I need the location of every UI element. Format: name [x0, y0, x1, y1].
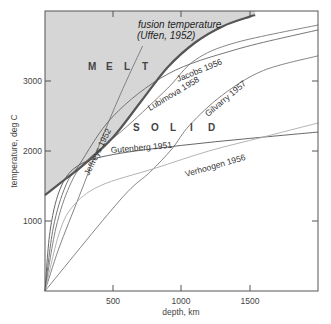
- gilvarry-label: Gilvarry 1957: [203, 78, 248, 118]
- y-tick-label: 3000: [23, 76, 42, 86]
- melt-letter: M: [88, 61, 96, 72]
- solid-letter: O: [151, 122, 159, 133]
- x-tick-label: 500: [106, 296, 120, 306]
- y-tick-label: 2000: [23, 146, 42, 156]
- fusion-label-line2: (Uffen, 1952): [137, 30, 195, 41]
- gutenberg-label: Gutenberg 1951: [110, 140, 172, 155]
- solid-letter: L: [170, 122, 176, 133]
- melt-letter: L: [124, 61, 130, 72]
- solid-letter: I: [190, 122, 193, 133]
- solid-label: S O L I D: [133, 122, 215, 133]
- x-tick-label: 1000: [172, 296, 191, 306]
- temperature-depth-chart: 500 1000 1500 1000 2000 3000 depth, km t…: [0, 0, 331, 324]
- y-tick-label: 1000: [23, 216, 42, 226]
- melt-letter: T: [142, 61, 148, 72]
- y-axis-title: temperature, deg C: [9, 114, 19, 187]
- solid-letter: D: [208, 122, 215, 133]
- x-axis-title: depth, km: [162, 307, 199, 317]
- fusion-label-line1: fusion temperature: [138, 19, 222, 30]
- x-tick-label: 1500: [241, 296, 260, 306]
- melt-letter: E: [106, 61, 113, 72]
- solid-letter: S: [133, 122, 140, 133]
